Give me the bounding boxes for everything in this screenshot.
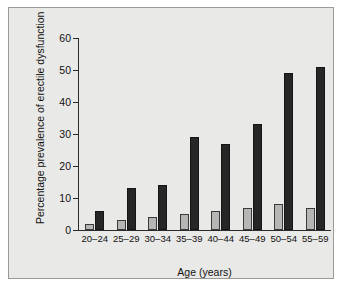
bar-dark [221, 144, 230, 230]
x-axis-category-label: 45–49 [237, 233, 269, 244]
x-axis-category-label: 50–54 [268, 233, 300, 244]
bar-dark [253, 124, 262, 230]
x-axis-category-label: 35–39 [174, 233, 206, 244]
y-axis-tick-mark [73, 102, 78, 103]
bar-dark [316, 67, 325, 230]
y-axis-tick-label: 60 [59, 32, 71, 44]
y-axis-tick-mark [73, 38, 78, 39]
bar-dark [127, 188, 136, 230]
y-axis-tick-mark [73, 198, 78, 199]
y-axis-tick-label: 30 [59, 128, 71, 140]
bar-group: 45–49 [237, 38, 269, 230]
bar-light [211, 211, 220, 230]
bar-light [148, 217, 157, 230]
bar-group: 50–54 [268, 38, 300, 230]
bar-light [180, 214, 189, 230]
x-axis-line [78, 230, 331, 231]
x-axis-category-label: 40–44 [205, 233, 237, 244]
y-axis-tick-label: 40 [59, 96, 71, 108]
bar-light [117, 220, 126, 230]
x-axis-category-label: 55–59 [300, 233, 332, 244]
x-axis-category-label: 25–29 [111, 233, 143, 244]
bar-dark [284, 73, 293, 230]
chart-panel: 0102030405060 20–2425–2930–3435–3940–444… [8, 7, 334, 279]
y-axis-tick-mark [73, 134, 78, 135]
plot-area: 0102030405060 20–2425–2930–3435–3940–444… [78, 38, 331, 230]
bar-group: 20–24 [79, 38, 111, 230]
y-axis-tick-mark [73, 166, 78, 167]
y-axis-title: Percentage prevalence of erectile dysfun… [34, 34, 46, 224]
bar-light [306, 208, 315, 230]
y-axis-tick-label: 50 [59, 64, 71, 76]
y-axis-tick-mark [73, 70, 78, 71]
bar-group: 35–39 [174, 38, 206, 230]
bar-group: 40–44 [205, 38, 237, 230]
bar-group: 25–29 [111, 38, 143, 230]
bar-light [243, 208, 252, 230]
bar-dark [190, 137, 199, 230]
y-axis-tick-mark [73, 230, 78, 231]
chart-figure: 0102030405060 20–2425–2930–3435–3940–444… [0, 0, 342, 286]
x-axis-category-label: 30–34 [142, 233, 174, 244]
bar-dark [158, 185, 167, 230]
y-axis-tick-label: 20 [59, 160, 71, 172]
x-axis-category-label: 20–24 [79, 233, 111, 244]
y-axis-tick-label: 10 [59, 192, 71, 204]
bar-series-container: 20–2425–2930–3435–3940–4445–4950–5455–59 [79, 38, 331, 230]
bar-light [274, 204, 283, 230]
y-axis-tick-label: 0 [65, 224, 71, 236]
bar-dark [95, 211, 104, 230]
x-axis-title: Age (years) [78, 266, 331, 278]
bar-group: 30–34 [142, 38, 174, 230]
bar-group: 55–59 [300, 38, 332, 230]
bar-light [85, 224, 94, 230]
